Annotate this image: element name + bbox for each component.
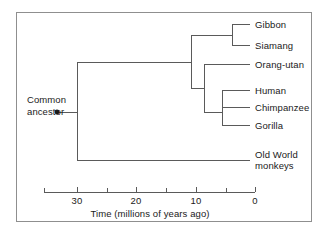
tip-label-old-world-monkeys-line1: Old World [255, 149, 298, 160]
axis-tick-label-20: 20 [124, 195, 148, 206]
tip-label-old-world-monkeys: Old World monkeys [255, 149, 298, 171]
axis-title: Time (millions of years ago) [30, 208, 270, 219]
tip-label-gibbon: Gibbon [255, 19, 286, 30]
tree-drawing [0, 0, 333, 238]
figure-container: Common ancestor Gibbon Siamang Orang-uta… [0, 0, 333, 238]
common-ancestor-label-line1: Common [27, 94, 66, 106]
axis-tick-label-30: 30 [65, 195, 89, 206]
tip-label-old-world-monkeys-line2: monkeys [255, 160, 298, 171]
axis-tick-label-10: 10 [184, 195, 208, 206]
common-ancestor-label: Common ancestor [27, 94, 66, 117]
tip-label-human: Human [255, 85, 286, 96]
tip-label-gorilla: Gorilla [255, 120, 283, 131]
common-ancestor-label-line2: ancestor [27, 106, 66, 118]
tip-label-orang-utan: Orang-utan [255, 59, 304, 70]
tip-label-chimpanzee: Chimpanzee [255, 102, 309, 113]
axis-tick-label-0: 0 [243, 195, 267, 206]
tip-label-siamang: Siamang [255, 40, 293, 51]
